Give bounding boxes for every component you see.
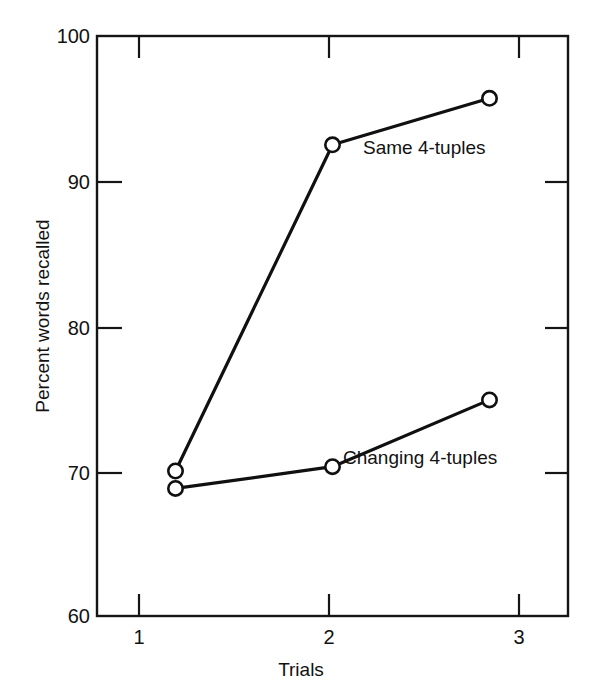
x-tick-label-1: 1 bbox=[119, 627, 159, 647]
x-tick-label-2: 2 bbox=[309, 627, 349, 647]
plot-frame bbox=[97, 36, 568, 616]
plot-area bbox=[0, 0, 602, 695]
y-tick-label-70: 70 bbox=[30, 463, 90, 483]
y-axis-ticks bbox=[97, 182, 122, 473]
series-annotation-changing-4-tuples: Changing 4-tuples bbox=[343, 447, 497, 469]
x-axis-title: Trials bbox=[0, 659, 602, 681]
y-axis-ticks-right bbox=[545, 182, 568, 473]
data-point-marker bbox=[482, 91, 496, 105]
chart-figure: 100 90 80 70 60 1 2 3 Trials Percent wor… bbox=[0, 0, 602, 695]
x-axis-ticks-top bbox=[139, 36, 519, 58]
series-annotation-same-4-tuples: Same 4-tuples bbox=[363, 137, 486, 159]
y-axis-title: Percent words recalled bbox=[32, 206, 54, 426]
x-tick-label-3: 3 bbox=[499, 627, 539, 647]
data-point-marker bbox=[168, 481, 182, 495]
data-point-marker bbox=[325, 138, 339, 152]
data-point-marker bbox=[325, 460, 339, 474]
y-tick-label-60: 60 bbox=[30, 606, 90, 626]
y-tick-label-100: 100 bbox=[30, 26, 90, 46]
x-axis-tick-labels: 1 2 3 bbox=[0, 627, 602, 657]
data-point-marker bbox=[168, 464, 182, 478]
x-axis-ticks bbox=[139, 594, 519, 616]
data-point-marker bbox=[482, 393, 496, 407]
y-tick-label-90: 90 bbox=[30, 172, 90, 192]
